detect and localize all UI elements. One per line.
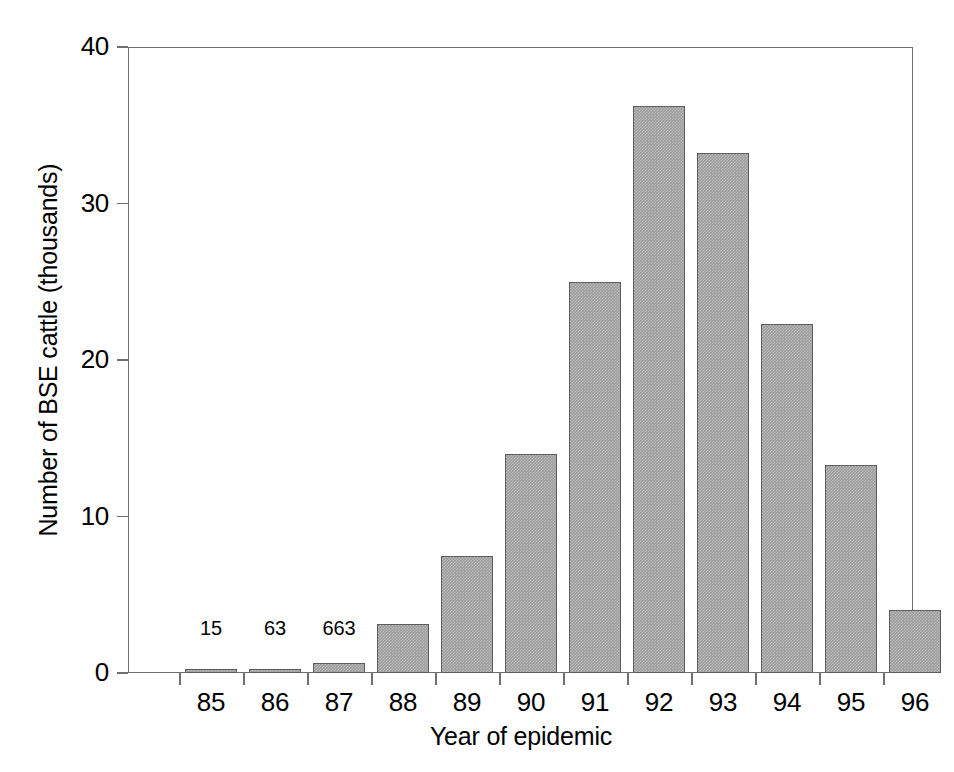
bar-92 <box>633 106 685 673</box>
x-tick-label-93: 93 <box>691 684 755 720</box>
y-tick-mark <box>117 672 128 674</box>
bar-89 <box>441 556 493 673</box>
x-tick-label-86: 86 <box>243 684 307 720</box>
x-tick-label-90: 90 <box>499 684 563 720</box>
bar-90 <box>505 454 557 673</box>
y-tick-label: 20 <box>81 342 109 376</box>
bar-88 <box>377 624 429 673</box>
y-axis-title: Number of BSE cattle (thousands) <box>28 30 68 670</box>
y-tick-label: 30 <box>81 186 109 220</box>
x-tick-label-88: 88 <box>371 684 435 720</box>
bar-87 <box>313 663 365 673</box>
x-tick-label-94: 94 <box>755 684 819 720</box>
y-tick-mark <box>117 359 128 361</box>
y-tick-label: 40 <box>81 29 109 63</box>
bar-96 <box>889 610 941 673</box>
y-tick-mark <box>117 46 128 48</box>
bar-93 <box>697 153 749 673</box>
x-tick-label-91: 91 <box>563 684 627 720</box>
bar-91 <box>569 282 621 673</box>
bar-94 <box>761 324 813 673</box>
x-tick-label-96: 96 <box>883 684 947 720</box>
x-tick-label-87: 87 <box>307 684 371 720</box>
y-tick-label: 0 <box>95 655 109 689</box>
x-tick-label-89: 89 <box>435 684 499 720</box>
y-tick-mark <box>117 203 128 205</box>
bar-annotation-87: 663 <box>299 615 379 641</box>
x-axis-title: Year of epidemic <box>128 722 914 751</box>
x-tick-label-92: 92 <box>627 684 691 720</box>
y-tick-mark <box>117 516 128 518</box>
y-tick-label: 10 <box>81 499 109 533</box>
bse-cattle-bar-chart: Number of BSE cattle (thousands) 0102030… <box>0 0 954 772</box>
bar-95 <box>825 465 877 673</box>
bar-86 <box>249 669 301 673</box>
x-tick-label-85: 85 <box>179 684 243 720</box>
bar-85 <box>185 669 237 673</box>
x-tick-label-95: 95 <box>819 684 883 720</box>
